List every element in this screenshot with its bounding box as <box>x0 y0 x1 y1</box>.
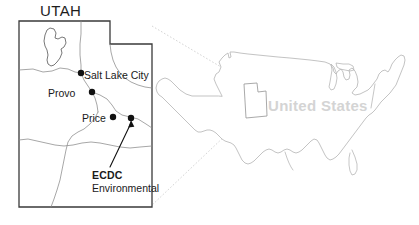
country-label-united-states: United States <box>268 98 368 113</box>
site-label-ecdc: ECDC <box>92 170 123 181</box>
locator-map-figure: UTAH Salt Lake City Provo Price ECDC Env… <box>0 0 419 225</box>
baja-texas-accent <box>285 152 293 170</box>
city-label-provo: Provo <box>48 88 75 99</box>
inset-title: UTAH <box>40 3 81 18</box>
marker-price <box>110 114 116 120</box>
marker-ecdc-site <box>128 115 134 121</box>
city-label-salt-lake-city: Salt Lake City <box>84 70 149 81</box>
marker-provo <box>89 89 95 95</box>
florida-peninsula <box>349 150 357 175</box>
site-label-ecdc-environmental: Environmental <box>92 183 159 194</box>
city-label-price: Price <box>82 113 106 124</box>
